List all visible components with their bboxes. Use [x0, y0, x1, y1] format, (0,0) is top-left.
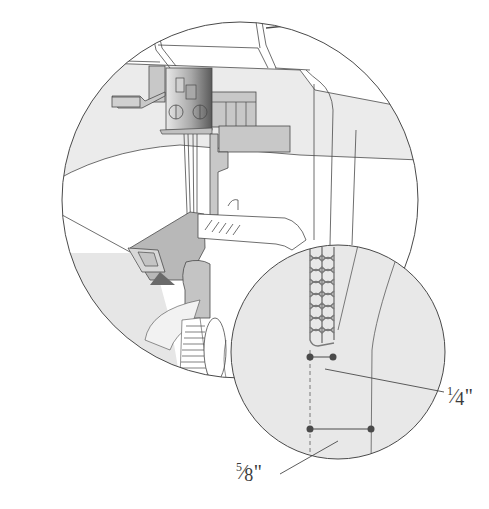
quarter-inch-label: 1⁄4": [447, 384, 474, 410]
main-circle-view: [0, 0, 489, 509]
five-eighths-label: 5⁄8": [236, 460, 263, 486]
marker-dot: [330, 354, 337, 361]
label-denominator: 4: [455, 389, 465, 409]
detail-circle-view: [231, 245, 445, 470]
marker-dot: [307, 426, 314, 433]
marker-dot: [307, 354, 314, 361]
serger-diagram: [0, 0, 489, 509]
label-unit: ": [254, 461, 263, 483]
label-unit: ": [465, 385, 474, 407]
label-denominator: 8: [244, 465, 254, 485]
marker-dot: [368, 426, 375, 433]
